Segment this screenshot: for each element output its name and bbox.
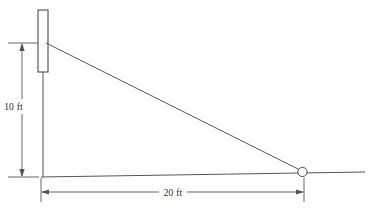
- vertical-dim-arrow-down-icon: [19, 169, 24, 177]
- vertical-dimension-group: 10 ft: [4, 43, 39, 177]
- horizontal-dimension-group: 20 ft: [41, 178, 304, 202]
- ladder-line: [46, 43, 300, 170]
- wall-group: [38, 10, 48, 177]
- wall-post: [38, 10, 48, 72]
- horizontal-dim-arrow-left-icon: [41, 189, 49, 194]
- ladder-diagram-figure: 10 ft 20 ft: [0, 0, 370, 213]
- diagram-canvas: 10 ft 20 ft: [0, 0, 370, 213]
- ladder-foot-ball: [298, 167, 307, 176]
- horizontal-dimension-label: 20 ft: [164, 188, 183, 198]
- ground-line: [41, 172, 365, 177]
- vertical-dimension-label: 10 ft: [4, 102, 23, 112]
- horizontal-dim-arrow-right-icon: [296, 189, 304, 194]
- vertical-dim-arrow-up-icon: [19, 43, 24, 51]
